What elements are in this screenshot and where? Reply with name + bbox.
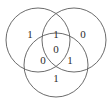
region-label-left-bottom: 0: [36, 55, 50, 66]
venn-diagram: 1 1 0 0 0 1 1: [0, 0, 112, 102]
region-label-left-only: 1: [23, 29, 37, 40]
region-label-right-only: 0: [76, 29, 90, 40]
region-label-left-right: 1: [49, 29, 63, 40]
region-label-right-bottom: 1: [63, 55, 77, 66]
region-label-center-all: 0: [49, 44, 63, 55]
region-label-bottom-only: 1: [49, 73, 63, 84]
